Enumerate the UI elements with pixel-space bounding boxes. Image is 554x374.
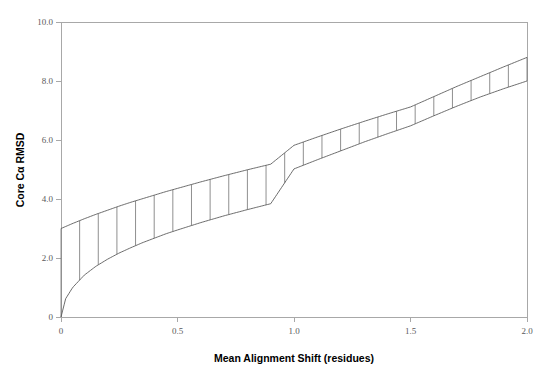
x-tick-label: 1.0 [288, 326, 300, 336]
figure-background [0, 0, 554, 374]
x-tick-label: 0.5 [172, 326, 184, 336]
band-chart-svg: 02.04.06.08.010.0 00.51.01.52.0 Mean Ali… [0, 0, 554, 374]
y-tick-label: 4.0 [42, 194, 54, 204]
y-tick-label: 10.0 [37, 17, 53, 27]
x-tick-label: 0 [59, 326, 64, 336]
y-tick-label: 0 [49, 312, 54, 322]
y-tick-label: 6.0 [42, 135, 54, 145]
y-tick-label: 2.0 [42, 253, 54, 263]
x-tick-label: 1.5 [405, 326, 417, 336]
x-axis-title: Mean Alignment Shift (residues) [214, 352, 374, 364]
y-axis-title: Core Cα RMSD [14, 132, 26, 207]
x-tick-label: 2.0 [521, 326, 533, 336]
y-tick-label: 8.0 [42, 76, 54, 86]
